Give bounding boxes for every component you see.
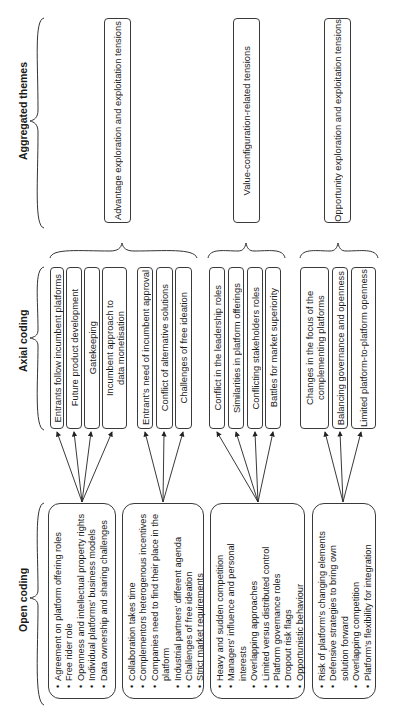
axial-code-box: Battles for market superiority [265, 267, 281, 429]
open-code-list: Collaboration takes time Complementors h… [127, 512, 207, 690]
open-code-item: Complementors heterogenous incentives [138, 512, 149, 690]
axial-brace-opportunity [300, 243, 378, 258]
open-code-item: Challenges of free ideation [184, 512, 195, 690]
open-code-item: Limited versus distributed control [261, 512, 272, 690]
axial-brace-advantage [50, 243, 197, 258]
axial-code-label: Incumbent approach to data monetisation [104, 293, 126, 403]
open-code-item: Industrial partners' different agenda [173, 512, 184, 690]
open-code-item: Strict market requirements [195, 512, 206, 690]
axial-code-box: Conflict in the leadership roles [209, 267, 225, 429]
open-code-item: Platform's flexibility for integration [363, 512, 374, 690]
open-code-item: Defensive strategies to bring own soluti… [328, 512, 351, 690]
axial-code-label: Similarities in platform offerings [231, 283, 242, 413]
axial-code-box: Limited platform-to-platform openness [351, 267, 376, 429]
open-code-item: Agreement on platform offering roles [53, 512, 64, 690]
theme-label: Opportunity exploration and exploitation… [332, 19, 343, 222]
axial-brace-value [208, 243, 285, 258]
axial-code-box: Entrants follow incumbent platforms [50, 267, 64, 429]
open-code-list: Heavy and sudden competition Managers' i… [215, 512, 306, 690]
open-code-item: Data ownership and sharing challenges [99, 512, 110, 690]
theme-value-configuration-box: Value-configuration-related tensions [233, 18, 260, 223]
axial-code-box: Conflict of alternative solutions [156, 267, 173, 429]
axial-code-label: Challenges of free ideation [178, 292, 189, 404]
axial-code-box: Entrant's need of incumbent approval [137, 267, 153, 429]
axial-code-box: Future product development [66, 267, 82, 429]
open-code-item: Overlapping competition [351, 512, 362, 690]
axial-code-label: Conflicting stakeholders roles [250, 287, 261, 409]
axial-code-label: Entrant's need of incumbent approval [140, 270, 151, 425]
axial-code-label: Limited platform-to-platform openness [358, 269, 369, 427]
open-code-list: Agreement on platform offering roles Fre… [53, 512, 110, 690]
open-code-group-1: Agreement on platform offering roles Fre… [48, 503, 116, 699]
open-code-item: Companies need to find their place in th… [150, 512, 173, 690]
axial-code-label: Entrants follow incumbent platforms [52, 274, 63, 423]
theme-label: Advantage exploration and exploitation t… [112, 21, 123, 220]
axial-code-box: Balancing governance and openness [332, 267, 348, 429]
axial-code-box: Changes in the focus of the complementin… [300, 267, 329, 429]
axial-code-box: Challenges of free ideation [175, 267, 192, 429]
axial-code-label: Conflict in the leadership roles [212, 285, 223, 411]
theme-advantage-box: Advantage exploration and exploitation t… [104, 18, 131, 223]
axial-code-label: Battles for market superiority [268, 288, 279, 407]
open-code-item: Risk of platform's changing elements [317, 512, 328, 690]
open-code-item: Managers' influence and personal interes… [226, 512, 249, 690]
open-coding-header: Open coding [17, 572, 29, 632]
axial-code-box: Conflicting stakeholders roles [247, 267, 263, 429]
open-code-item: Heavy and sudden competition [215, 512, 226, 690]
open-code-item: Free rider role [64, 512, 75, 690]
open-code-group-3: Heavy and sudden competition Managers' i… [210, 503, 305, 699]
axial-code-label: Future product development [69, 289, 80, 406]
theme-opportunity-box: Opportunity exploration and exploitation… [324, 18, 351, 223]
aggregated-themes-brace [30, 18, 44, 228]
theme-label: Value-configuration-related tensions [241, 46, 252, 195]
aggregated-themes-header: Aggregated themes [17, 70, 29, 160]
axial-code-label: Conflict of alternative solutions [159, 284, 170, 411]
axial-code-label: Gatekeeping [87, 321, 98, 374]
open-code-item: Overlapping approaches [249, 512, 260, 690]
open-code-item: Openness and intellectual property right… [76, 512, 87, 690]
open-code-group-4: Risk of platform's changing elements Def… [312, 503, 376, 699]
axial-code-label: Balancing governance and openness [335, 271, 346, 425]
axial-code-label: Changes in the focus of the complementin… [304, 288, 326, 408]
axial-coding-brace [30, 267, 44, 430]
open-code-item: Dropout risk flags [283, 512, 294, 690]
open-code-item: Individual platforms' business models [87, 512, 98, 690]
axial-code-box: Similarities in platform offerings [228, 267, 244, 429]
open-code-item: Collaboration takes time [127, 512, 138, 690]
open-coding-brace [30, 503, 44, 705]
open-code-item: Platform governance roles [272, 512, 283, 690]
open-code-group-2: Collaboration takes time Complementors h… [122, 503, 204, 699]
axial-code-box: Gatekeeping [84, 267, 100, 429]
open-code-list: Risk of platform's changing elements Def… [317, 512, 374, 690]
open-code-item: Opportunistic behaviour [295, 512, 306, 690]
axial-code-box: Incumbent approach to data monetisation [102, 267, 127, 429]
axial-coding-header: Axial coding [17, 312, 29, 372]
